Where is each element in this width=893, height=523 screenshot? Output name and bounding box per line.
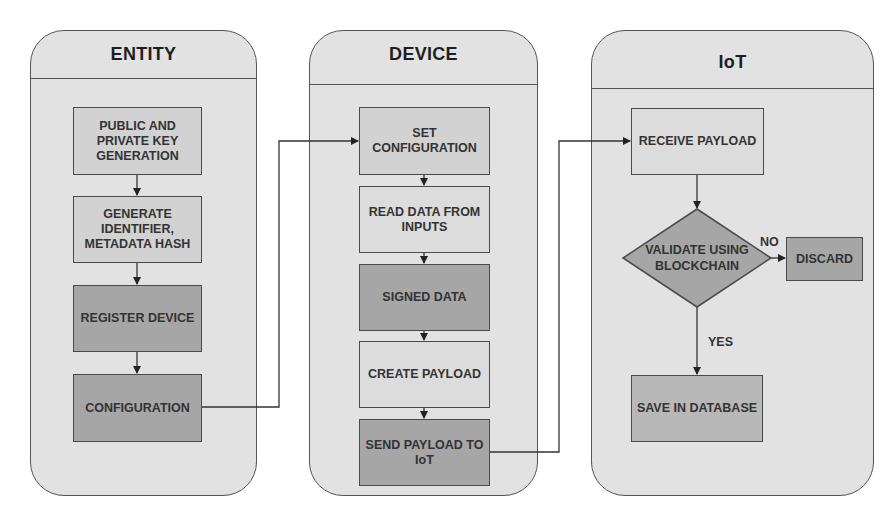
step-set-configuration: SET CONFIGURATION [359,107,490,175]
lane-divider [31,78,256,79]
step-receive-payload: RECEIVE PAYLOAD [631,108,764,175]
lane-divider [310,84,537,85]
branch-label-no: NO [760,235,779,249]
step-save-database: SAVE IN DATABASE [631,375,763,442]
decision-validate-label: VALIDATE USING BLOCKCHAIN [627,242,767,274]
lane-title-iot: IoT [592,52,873,73]
step-generate-identifier: GENERATE IDENTIFIER, METADATA HASH [73,196,202,263]
step-discard: DISCARD [786,237,863,281]
step-read-data: READ DATA FROM INPUTS [359,186,490,253]
step-signed-data: SIGNED DATA [359,264,490,331]
branch-label-yes: YES [708,335,733,349]
step-register-device: REGISTER DEVICE [73,285,202,352]
step-send-payload: SEND PAYLOAD TO IoT [359,419,490,486]
step-key-generation: PUBLIC AND PRIVATE KEY GENERATION [73,107,202,175]
lane-title-entity: ENTITY [31,44,256,65]
step-configuration: CONFIGURATION [73,374,202,442]
step-create-payload: CREATE PAYLOAD [359,341,490,408]
lane-title-device: DEVICE [310,44,537,65]
lane-divider [592,88,873,89]
